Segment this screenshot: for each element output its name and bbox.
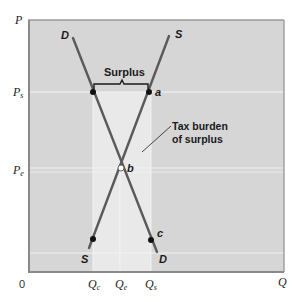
point-c — [148, 237, 154, 243]
surplus-strip — [93, 92, 151, 272]
supply-demand-chart: P Q 0 Ps Pe Qc Qe Qs D S S D a b c Surpl… — [0, 0, 300, 302]
demand-label-bottom: D — [159, 253, 167, 265]
point-supply-low — [90, 236, 96, 242]
qs-label: Qs — [145, 277, 157, 292]
demand-label-top: D — [61, 29, 69, 41]
point-demand-at-ps — [90, 89, 96, 95]
point-b-label: b — [127, 162, 134, 174]
x-axis-label: Q — [278, 275, 287, 289]
supply-label-bottom: S — [81, 253, 89, 265]
plot-background — [28, 20, 284, 272]
point-c-label: c — [157, 227, 163, 239]
ps-label: Ps — [12, 85, 23, 100]
supply-label-top: S — [175, 28, 183, 40]
qe-label: Qe — [115, 277, 128, 292]
surplus-label: Surplus — [104, 66, 145, 78]
tax-burden-label-line1: Tax burden — [172, 120, 228, 132]
point-a — [146, 89, 152, 95]
tax-burden-label-line2: of surplus — [172, 133, 223, 145]
point-b — [118, 165, 124, 171]
pe-label: Pe — [12, 163, 24, 178]
origin-label: 0 — [19, 278, 25, 290]
qc-label: Qc — [88, 277, 101, 292]
y-axis-label: P — [14, 13, 23, 27]
point-a-label: a — [155, 86, 161, 98]
